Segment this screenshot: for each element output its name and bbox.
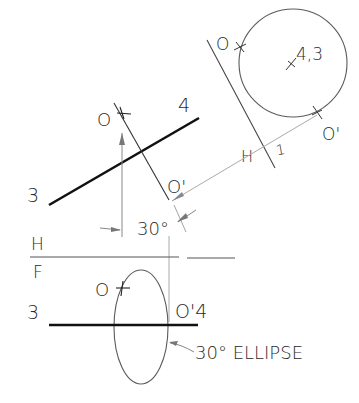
- fold-line-hf-group: H F: [30, 234, 235, 282]
- auxiliary-view: 4,3 O O' H 1: [207, 9, 347, 168]
- top-view: 3 4 O O' 30°: [27, 94, 199, 322]
- front-view: 3 O O'4 30° ELLIPSE: [27, 270, 303, 384]
- center-mark-icon: [286, 58, 296, 70]
- orthographic-projection-diagram: 4,3 O O' H 1 3 4 O O': [0, 0, 359, 403]
- top-point-o-prime-label: O': [167, 176, 186, 197]
- ellipse-callout-label: 30° ELLIPSE: [195, 342, 303, 363]
- top-point-o-cross-icon: [117, 107, 131, 119]
- front-endpoint-3-label: 3: [27, 301, 39, 323]
- fold-label-h-upper: H: [31, 234, 44, 254]
- angle-30-label: 30°: [137, 218, 169, 239]
- arrowhead-up-icon: [119, 133, 125, 145]
- circle-center-label: 4,3: [296, 44, 323, 64]
- projection-line-o-prime: [172, 115, 317, 201]
- fold-label-f-lower: F: [33, 262, 43, 282]
- front-point-o-label: O: [95, 279, 109, 300]
- top-endpoint-4-label: 4: [178, 94, 190, 116]
- aux-point-o-label: O: [216, 34, 229, 54]
- arrowhead-left-icon: [177, 213, 188, 222]
- front-point-o-cross-icon: [116, 281, 130, 296]
- aux-point-o-prime-label: O': [322, 124, 340, 144]
- true-size-circle: [239, 9, 347, 117]
- top-endpoint-3-label: 3: [27, 184, 39, 206]
- fold-label-1: 1: [275, 141, 287, 158]
- front-point-o-prime-4-label: O'4: [175, 300, 207, 322]
- top-point-o-label: O: [97, 109, 111, 130]
